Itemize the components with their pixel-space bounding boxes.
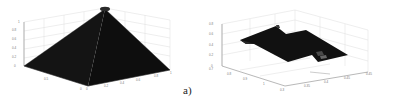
svg-text:0: 0 [80,87,82,91]
svg-text:0.45: 0.45 [366,72,372,76]
z-tick-labels: 0 0.2 0.4 0.6 0.8 1 [12,20,20,68]
svg-text:0.8: 0.8 [12,28,17,32]
surface-plot-a: 0 0.2 0.4 0.6 0.8 1 0.5 0 0 0.2 0.4 0.6 … [0,0,200,108]
svg-text:0.4: 0.4 [324,80,329,84]
svg-text:1: 1 [263,82,265,86]
svg-text:0.6: 0.6 [209,32,214,36]
svg-text:0.2: 0.2 [12,55,17,59]
surface-plot-b: 0 0.2 0.4 0.6 0.8 0.7 0.8 0.9 1 0.3 0.35… [200,0,401,108]
svg-text:0.6: 0.6 [136,78,141,82]
stepped-surface [240,25,348,62]
svg-text:0.35: 0.35 [304,84,310,88]
svg-text:0.4: 0.4 [209,43,214,47]
stepped-surface-chart: 0 0.2 0.4 0.6 0.8 0.7 0.8 0.9 1 0.3 0.35… [200,0,401,108]
svg-text:0.6: 0.6 [12,37,17,41]
svg-text:0.8: 0.8 [227,72,232,76]
svg-text:1: 1 [170,71,172,75]
svg-text:1: 1 [18,20,20,24]
svg-text:0.8: 0.8 [154,74,159,78]
panel-label-a: a) [183,84,192,96]
svg-text:0.2: 0.2 [209,53,214,57]
svg-text:0.3: 0.3 [280,88,285,92]
svg-text:0.7: 0.7 [209,67,214,71]
svg-text:0.45: 0.45 [344,76,350,80]
svg-text:0.4: 0.4 [12,46,17,50]
svg-text:0.2: 0.2 [104,84,109,88]
z-tick-labels: 0 0.2 0.4 0.6 0.8 0.7 [209,22,214,71]
pyramid-surface-chart: 0 0.2 0.4 0.6 0.8 1 0.5 0 0 0.2 0.4 0.6 … [0,0,200,108]
x-axis [222,66,285,86]
svg-text:0: 0 [86,87,88,91]
svg-text:0.4: 0.4 [120,81,125,85]
pyramid-surface [24,7,170,86]
svg-text:0: 0 [14,64,16,68]
svg-text:0.8: 0.8 [209,22,214,26]
svg-text:0.9: 0.9 [243,77,248,81]
pyramid-peak [100,7,110,11]
svg-text:0.5: 0.5 [44,77,49,81]
